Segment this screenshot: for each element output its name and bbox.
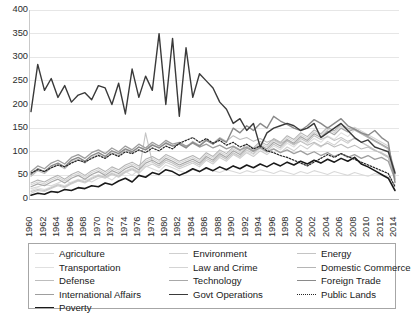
x-tick-label: 2008	[348, 217, 358, 237]
series-line-law-and-crime	[31, 126, 395, 185]
legend-item[interactable]: Environment	[169, 247, 297, 261]
x-tick-label: 1970	[92, 217, 102, 237]
legend-item[interactable]: Govt Operations	[169, 288, 297, 302]
x-tick-label: 1982	[172, 217, 182, 237]
legend-item[interactable]: Domestic Commerce	[297, 261, 395, 275]
legend-label: Environment	[193, 248, 247, 259]
legend-swatch-icon	[169, 267, 188, 268]
plot-svg	[29, 0, 399, 212]
x-tick-label: 1980	[159, 217, 169, 237]
legend-swatch-icon	[169, 253, 188, 254]
x-tick-label: 1968	[78, 217, 88, 237]
legend-label: Public Lands	[321, 289, 376, 300]
x-tick-label: 2002	[307, 217, 317, 237]
y-tick-label: 0	[2, 194, 28, 203]
legend-item[interactable]: Poverty	[35, 301, 167, 315]
legend-swatch-icon	[297, 267, 316, 268]
x-tick-label: 2006	[334, 217, 344, 237]
legend-label: Technology	[193, 275, 242, 286]
y-tick-label: 250	[2, 76, 28, 85]
legend-item[interactable]: Technology	[169, 274, 297, 288]
x-tick-label: 1962	[38, 217, 48, 237]
legend-swatch-icon	[297, 294, 316, 295]
x-axis-labels: 1960196219641966196819701972197419761978…	[29, 200, 399, 240]
y-tick-label: 50	[2, 170, 28, 179]
x-tick-label: 1986	[199, 217, 209, 237]
legend-swatch-icon	[169, 294, 188, 295]
x-tick-label: 1996	[267, 217, 277, 237]
x-tick-label: 2014	[388, 217, 398, 237]
legend-label: Defense	[59, 275, 95, 286]
x-tick-label: 1960	[24, 217, 34, 237]
legend: AgricultureTransportationDefenseInternat…	[28, 243, 396, 309]
y-tick-label: 350	[2, 29, 28, 38]
legend-label: Transportation	[59, 262, 121, 273]
x-tick-label: 1994	[253, 217, 263, 237]
legend-column-0: AgricultureTransportationDefenseInternat…	[35, 247, 167, 315]
x-tick-label: 1976	[132, 217, 142, 237]
x-tick-label: 1972	[105, 217, 115, 237]
x-tick-label: 2012	[375, 217, 385, 237]
y-tick-label: 150	[2, 123, 28, 132]
x-tick-label: 1978	[146, 217, 156, 237]
legend-item[interactable]: Law and Crime	[169, 261, 297, 275]
y-tick-label: 300	[2, 52, 28, 61]
y-tick-label: 100	[2, 147, 28, 156]
x-tick-label: 2010	[361, 217, 371, 237]
legend-label: Energy	[321, 248, 351, 259]
legend-swatch-icon	[35, 267, 54, 268]
legend-column-1: EnvironmentLaw and CrimeTechnologyGovt O…	[169, 247, 297, 301]
legend-label: Law and Crime	[193, 262, 258, 273]
x-tick-label: 1988	[213, 217, 223, 237]
x-tick-label: 2000	[294, 217, 304, 237]
legend-item[interactable]: International Affairs	[35, 288, 167, 302]
legend-label: Domestic Commerce	[321, 262, 411, 273]
legend-item[interactable]: Transportation	[35, 261, 167, 275]
x-tick-label: 2004	[321, 217, 331, 237]
x-tick-label: 1964	[51, 217, 61, 237]
y-tick-label: 400	[2, 5, 28, 14]
legend-swatch-icon	[35, 280, 54, 281]
legend-item[interactable]: Defense	[35, 274, 167, 288]
y-axis-labels: 400350300250200150100500	[0, 0, 28, 212]
legend-item[interactable]: Agriculture	[35, 247, 167, 261]
legend-column-2: EnergyDomestic CommerceForeign TradePubl…	[297, 247, 395, 301]
y-tick-label: 200	[2, 100, 28, 109]
x-tick-label: 1990	[226, 217, 236, 237]
legend-swatch-icon	[169, 280, 188, 281]
legend-label: Poverty	[59, 302, 92, 313]
x-tick-label: 1974	[119, 217, 129, 237]
legend-label: Govt Operations	[193, 289, 263, 300]
legend-label: Foreign Trade	[321, 275, 381, 286]
legend-swatch-icon	[35, 294, 54, 295]
x-tick-label: 1998	[280, 217, 290, 237]
legend-swatch-icon	[35, 253, 54, 254]
legend-swatch-icon	[297, 253, 316, 254]
legend-label: International Affairs	[59, 289, 141, 300]
x-tick-label: 1984	[186, 217, 196, 237]
x-tick-label: 1992	[240, 217, 250, 237]
x-tick-label: 1966	[65, 217, 75, 237]
series-line-environment	[31, 138, 395, 194]
legend-swatch-icon	[35, 307, 54, 308]
legend-item[interactable]: Energy	[297, 247, 395, 261]
legend-item[interactable]: Foreign Trade	[297, 274, 395, 288]
plot-area: 400350300250200150100500	[0, 0, 406, 212]
legend-item[interactable]: Public Lands	[297, 288, 395, 302]
legend-label: Agriculture	[59, 248, 105, 259]
legend-swatch-icon	[297, 280, 316, 281]
